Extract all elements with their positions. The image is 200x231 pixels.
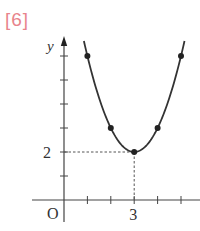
- data-point: [131, 149, 137, 155]
- y-axis-label: y: [45, 38, 54, 54]
- y-axis-arrow-icon: [61, 36, 67, 46]
- data-point: [178, 53, 184, 59]
- y-tick-label: 2: [43, 144, 51, 161]
- data-point: [155, 125, 161, 131]
- data-point: [108, 125, 114, 131]
- data-point: [84, 53, 90, 59]
- axes: [32, 36, 200, 222]
- data-points: [84, 53, 184, 155]
- origin-label: O: [47, 205, 59, 222]
- parabola-chart: y23O: [0, 0, 200, 231]
- x-tick-label: 3: [129, 206, 137, 223]
- parabola-curve: [84, 41, 185, 152]
- dashed-guides: [64, 152, 134, 200]
